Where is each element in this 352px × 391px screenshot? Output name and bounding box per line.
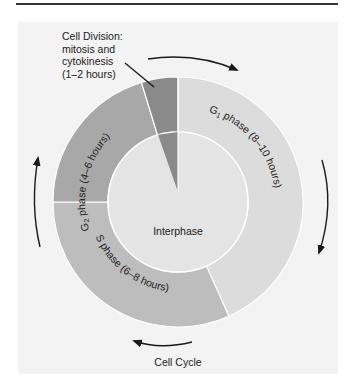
cell-cycle-title: Cell Cycle (154, 356, 201, 368)
cycle-arrow-left (34, 158, 40, 247)
cycle-arrow-bottom (134, 341, 192, 346)
cell-cycle-diagram: Interphase G1 phase (8–10 hours) G2 phas… (0, 0, 352, 391)
cycle-arrow-right (319, 160, 328, 253)
cycle-arrow-top (148, 57, 237, 70)
cell-division-label: Cell Division: mitosis and cytokinesis (… (62, 30, 126, 80)
interphase-label: Interphase (153, 225, 203, 237)
